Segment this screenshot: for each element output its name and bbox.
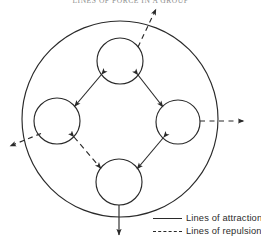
group-boundary-circle (22, 21, 218, 217)
link-top-right-attraction (138, 75, 163, 107)
member-bottom-circle (96, 159, 142, 205)
member-top-circle (97, 38, 143, 84)
member-left-circle (34, 98, 80, 144)
external-link-top-repulsion (138, 9, 156, 47)
legend-label-repulsion: Lines of repulsion (183, 226, 261, 236)
link-top-left-attraction (75, 75, 102, 107)
legend: Lines of attraction Lines of repulsion (152, 211, 261, 239)
figure-container: LINES OF FORCE IN A GROUP (0, 0, 261, 239)
legend-item-repulsion: Lines of repulsion (152, 224, 261, 237)
dashed-line-icon (152, 226, 183, 236)
solid-line-icon (152, 213, 183, 223)
link-right-bottom-attraction (137, 138, 164, 170)
legend-label-attraction: Lines of attraction (183, 213, 261, 223)
link-left-bottom-repulsion (74, 137, 101, 169)
legend-item-attraction: Lines of attraction (152, 211, 261, 224)
lines-of-force-diagram (0, 0, 261, 239)
